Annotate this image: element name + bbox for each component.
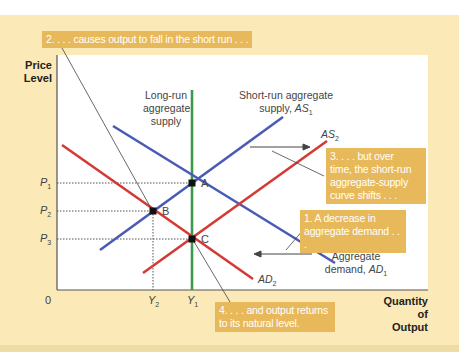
ad2-line <box>62 145 253 279</box>
callout-4: 4. . . . and output returns to its natur… <box>215 302 335 332</box>
as2-label: AS2 <box>321 128 339 145</box>
point-c-label: C <box>201 233 209 245</box>
x-axis-title-line2: Output <box>380 321 428 334</box>
callout-3: 3. . . . but over time, the short-run ag… <box>326 148 426 204</box>
origin-label: 0 <box>45 294 51 306</box>
x-axis-title: Quantity of Output <box>380 295 428 334</box>
tick-p1: P1 <box>40 176 51 190</box>
tick-p2: P2 <box>40 204 51 218</box>
sras-label: Short-run aggregate supply, AS1 <box>237 89 335 119</box>
tick-y1: Y1 <box>187 294 198 308</box>
tick-p3: P3 <box>40 232 51 246</box>
point-b-label: B <box>162 205 169 217</box>
x-axis-title-line1: Quantity of <box>380 295 428 321</box>
ad1-label: Aggregate demand, AD1 <box>318 250 394 280</box>
tick-y2: Y2 <box>148 294 159 308</box>
ad2-label: AD2 <box>258 273 277 290</box>
y-axis-title-line1: Price <box>22 59 52 72</box>
point-a-label: A <box>201 177 208 189</box>
lras-label: Long-run aggregate supply <box>143 89 189 128</box>
y-axis-title: Price Level <box>22 59 52 85</box>
y-axis-title-line2: Level <box>22 72 52 85</box>
callout-2: 2. . . . causes output to fall in the sh… <box>42 31 252 48</box>
callout-1: 1. A decrease in aggregate demand . . . <box>300 210 406 253</box>
